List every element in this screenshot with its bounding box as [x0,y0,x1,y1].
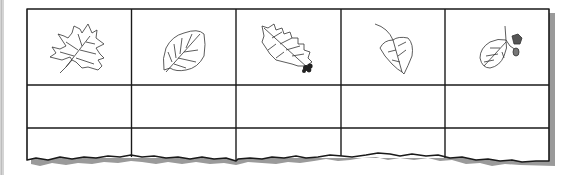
leaf-chart-sheet [0,0,578,175]
